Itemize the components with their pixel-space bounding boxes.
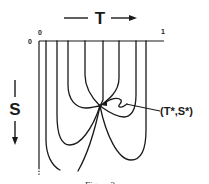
arrow-right-icon (129, 15, 137, 21)
curve-2 (57, 41, 100, 145)
t-tick-one: 1 (161, 28, 165, 35)
equilibrium-label: (T*,S*) (160, 105, 193, 117)
curve-1 (46, 41, 60, 170)
s-axis-label: S (9, 100, 20, 119)
curve-family (46, 41, 146, 171)
s-axis-label-group: S (9, 80, 20, 145)
arrow-down-icon (12, 137, 18, 145)
s-origin-label: 0 (28, 38, 32, 45)
curve-3 (68, 41, 100, 108)
diagram-canvas: T 0 1 0 S ( (0, 0, 209, 184)
leader-line (126, 104, 160, 111)
curve-4 (85, 41, 100, 106)
annotation-leader (101, 98, 160, 111)
t-axis-label: T (95, 9, 106, 28)
figure-caption: Figure 3 (85, 180, 116, 184)
convergence-point (98, 104, 102, 108)
t-tick-zero: 0 (38, 29, 42, 36)
t-axis-label-group: T (64, 9, 137, 28)
